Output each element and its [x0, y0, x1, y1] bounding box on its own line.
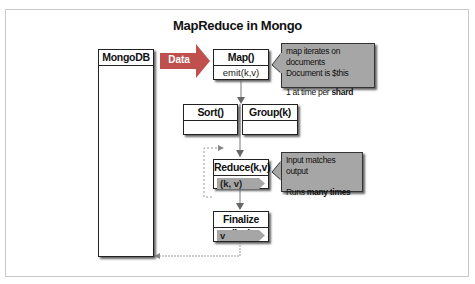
sort-box: Sort() [183, 104, 238, 135]
map-note-line3: 1 at time per shard [286, 87, 370, 98]
reduce-tag-text: (k, v) [220, 178, 242, 189]
reduce-label: Reduce(k,v) [214, 160, 268, 176]
reduce-note-line1: Input matches output [286, 155, 358, 177]
reduce-note-line2-text: Runs [286, 187, 307, 197]
reduce-box: Reduce(k,v) (k, v) [213, 159, 269, 189]
map-note-line1: map iterates on documents [286, 46, 370, 68]
finalize-tag: v [217, 230, 265, 241]
reduce-note-line2: Runs many times [286, 187, 358, 198]
callout-join [280, 53, 283, 73]
map-note-line2: Document is $this [286, 68, 370, 79]
map-note-line3-text: 1 at time per [286, 87, 331, 97]
sort-label: Sort() [184, 105, 237, 121]
finalize-tag-text: v [220, 230, 225, 241]
reduce-note: Input matches output Runs many times [281, 152, 363, 192]
finalize-box: Finalize (k,v) v [213, 211, 269, 242]
map-note-line3-bold: shard [331, 87, 353, 97]
reduce-note-line2-bold: many times [307, 187, 351, 197]
reduce-tag: (k, v) [217, 178, 265, 189]
finalize-label: Finalize (k,v) [214, 212, 268, 228]
group-box: Group(k) [242, 104, 298, 135]
map-note: map iterates on documents Document is $t… [281, 43, 375, 88]
group-label: Group(k) [243, 105, 297, 121]
